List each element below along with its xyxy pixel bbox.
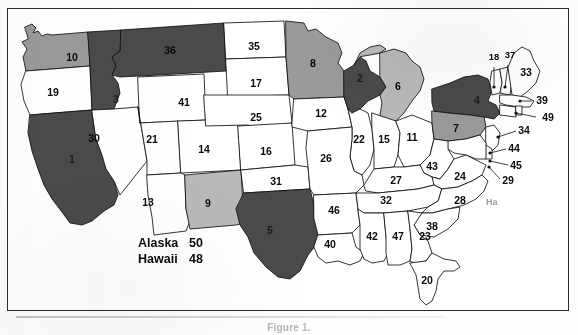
map-canvas: 10 19 3 1 30 36 41 21 14 13 9 35 17 25 1… — [8, 9, 570, 312]
state-label-CA: 1 — [69, 153, 75, 165]
state-label-MD: 44 — [508, 142, 520, 154]
state-label-CT: 49 — [542, 111, 554, 123]
leader-dot-DC — [488, 159, 491, 162]
state-label-VA: 24 — [454, 170, 466, 182]
state-label-OH: 11 — [406, 131, 417, 143]
leader-NJ — [498, 131, 516, 137]
state-NM[interactable] — [185, 170, 244, 229]
state-label-MI: 6 — [395, 80, 401, 92]
state-label-ND: 35 — [248, 40, 260, 52]
state-label-PA: 7 — [453, 122, 459, 134]
map-frame: 10 19 3 1 30 36 41 21 14 13 9 35 17 25 1… — [7, 8, 569, 311]
state-label-OR: 19 — [47, 86, 59, 98]
page-edge-shadow — [16, 316, 446, 318]
state-CT[interactable] — [500, 105, 516, 117]
state-WY[interactable] — [138, 74, 206, 123]
state-label-WA: 10 — [66, 51, 78, 63]
leader-dot-VT — [492, 85, 495, 88]
state-label-SD: 17 — [250, 77, 262, 89]
state-LA[interactable] — [314, 233, 364, 265]
alaska-label: Alaska — [138, 236, 179, 250]
state-label-IL: 22 — [353, 133, 365, 145]
state-label-AZ: 13 — [142, 196, 154, 208]
state-label-WI: 2 — [357, 72, 363, 84]
state-label-GA: 23 — [419, 230, 431, 242]
state-label-ME: 33 — [520, 66, 532, 78]
state-label-NY: 4 — [474, 94, 480, 106]
state-label-CO: 14 — [198, 143, 210, 155]
state-label-IN: 15 — [378, 133, 390, 145]
state-NE[interactable] — [204, 95, 292, 127]
figure-page: 10 19 3 1 30 36 41 21 14 13 9 35 17 25 1… — [0, 0, 578, 335]
alaska-value: 50 — [189, 236, 203, 250]
state-label-NJ: 34 — [518, 124, 530, 136]
leader-dot-DE — [487, 165, 490, 168]
leader-dot-CT — [514, 111, 517, 114]
state-label-MN: 8 — [310, 57, 316, 69]
state-label-ID: 3 — [113, 93, 119, 105]
leader-dot-NH — [503, 85, 506, 88]
hawaii-label: Hawaii — [138, 252, 178, 266]
state-label-DC: 45 — [510, 159, 522, 171]
state-label-MT: 36 — [164, 44, 176, 56]
leader-dot-MA — [518, 99, 521, 102]
state-label-UT: 21 — [146, 133, 158, 145]
state-label-MO: 26 — [320, 152, 332, 164]
state-label-NH: 37 — [505, 49, 516, 60]
state-WA[interactable] — [22, 24, 90, 71]
state-label-NE: 25 — [250, 111, 262, 123]
state-label-KS: 16 — [260, 145, 272, 157]
state-TX[interactable] — [236, 189, 322, 279]
state-label-NC: 28 — [454, 194, 466, 206]
state-label-WY: 41 — [178, 96, 190, 108]
state-label-AL: 47 — [392, 230, 404, 242]
scan-artifact-text: Ha — [486, 197, 498, 207]
state-label-TN: 32 — [380, 194, 392, 206]
state-label-IA: 12 — [315, 107, 327, 119]
leader-dot-MD — [488, 151, 491, 154]
state-label-NM: 9 — [205, 197, 211, 209]
state-label-FL: 20 — [421, 274, 433, 286]
leader-dot-NJ — [496, 135, 499, 138]
state-label-LA: 40 — [324, 238, 336, 250]
state-label-MA: 39 — [536, 94, 548, 106]
state-label-VT: 18 — [489, 51, 500, 62]
leader-DE — [489, 167, 500, 179]
leader-DC — [490, 161, 508, 165]
us-choropleth-map: 10 19 3 1 30 36 41 21 14 13 9 35 17 25 1… — [8, 9, 570, 312]
state-label-KY: 27 — [390, 174, 402, 186]
state-label-WV: 43 — [426, 160, 438, 172]
figure-caption: Figure 1. — [0, 322, 578, 335]
state-label-AR: 46 — [328, 204, 340, 216]
state-label-OK: 31 — [270, 175, 282, 187]
state-label-DE: 29 — [502, 174, 514, 186]
hawaii-value: 48 — [189, 252, 203, 266]
state-label-NV: 30 — [88, 132, 100, 144]
state-label-TX: 5 — [267, 224, 273, 236]
state-label-MS: 42 — [366, 230, 378, 242]
